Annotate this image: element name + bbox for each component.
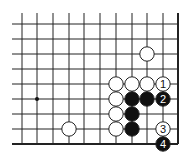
white-stone: [140, 47, 154, 61]
black-stone: [125, 92, 139, 106]
move-number: 4: [160, 138, 166, 150]
white-stone-3: 3: [156, 122, 170, 136]
white-stone-1: 1: [156, 77, 170, 91]
star-points: [35, 97, 39, 101]
white-stone: [109, 92, 123, 106]
board-grid: [12, 13, 178, 144]
move-number: 3: [160, 123, 166, 135]
white-stone: [109, 122, 123, 136]
move-number: 2: [160, 93, 166, 105]
black-stone: [125, 122, 139, 136]
white-stone: [140, 77, 154, 91]
black-stone-4: 4: [156, 137, 170, 151]
white-stone: [109, 77, 123, 91]
white-stone: [62, 122, 76, 136]
black-stone: [140, 92, 154, 106]
black-stone-2: 2: [156, 92, 170, 106]
white-stone: [109, 107, 123, 121]
star-point: [35, 97, 39, 101]
move-number: 1: [160, 78, 166, 90]
white-stone: [125, 77, 139, 91]
black-stone: [125, 107, 139, 121]
go-board: 1234: [0, 0, 188, 159]
